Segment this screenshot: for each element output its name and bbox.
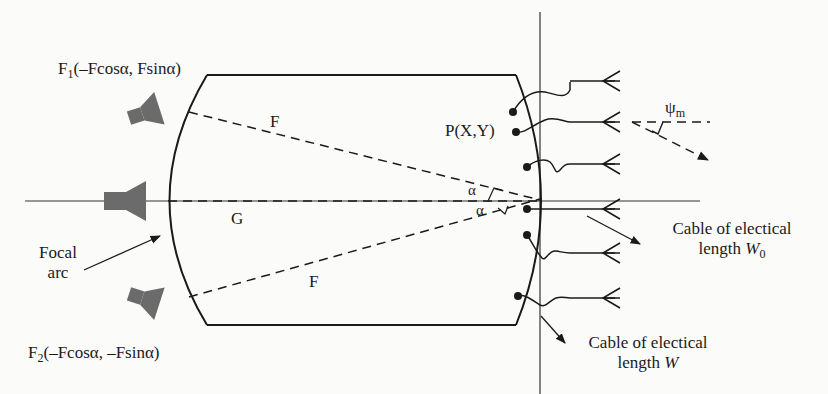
feed-horn-top bbox=[124, 92, 165, 134]
point-p-label: P(X,Y) bbox=[445, 121, 495, 141]
beam-direction bbox=[632, 122, 710, 160]
cable-w0-var: W bbox=[745, 239, 759, 258]
cable-w-arrow bbox=[541, 316, 565, 343]
f2-label: F2(–Fcosα, –Fsinα) bbox=[28, 343, 160, 363]
cable-w0-label: Cable of electical length W0 bbox=[652, 219, 812, 259]
focal-arc-line2: arc bbox=[28, 263, 88, 283]
upper-f-label: F bbox=[270, 112, 279, 132]
cable-w-line1: Cable of electical bbox=[568, 333, 728, 353]
cable-w0-line1: Cable of electical bbox=[652, 219, 812, 239]
cable-w0-subscript: 0 bbox=[759, 247, 765, 261]
antenna-elements bbox=[603, 71, 620, 308]
alpha-upper-label: α bbox=[468, 180, 476, 200]
cable-w0-length-text: length bbox=[699, 239, 746, 258]
cable-w0-line2: length W0 bbox=[652, 239, 812, 259]
lower-f-label: F bbox=[309, 272, 318, 292]
psi-subscript: m bbox=[676, 106, 685, 120]
focal-arc-label: Focal arc bbox=[28, 243, 88, 283]
focal-arc-curve bbox=[170, 75, 208, 325]
g-label: G bbox=[231, 209, 243, 229]
alpha-lower-label: α bbox=[476, 200, 484, 220]
psi-m-label: ψm bbox=[665, 98, 685, 118]
feed-horn-center bbox=[104, 181, 146, 221]
psi-symbol: ψ bbox=[665, 98, 676, 117]
cable-w-var: W bbox=[664, 353, 678, 372]
focal-arc-line1: Focal bbox=[28, 243, 88, 263]
array-port-dots bbox=[509, 108, 531, 300]
cable-w-line2: length W bbox=[568, 353, 728, 373]
cable-w-length-text: length bbox=[618, 353, 665, 372]
f1-label: F1(–Fcosα, Fsinα) bbox=[58, 59, 181, 79]
f2-coords: (–Fcosα, –Fsinα) bbox=[43, 343, 159, 362]
focal-arc-arrow bbox=[84, 236, 160, 270]
feed-horn-bottom bbox=[124, 278, 165, 320]
f1-coords: (–Fcosα, Fsinα) bbox=[73, 59, 181, 78]
cable-w0-arrow bbox=[587, 216, 640, 244]
cable-w-label: Cable of electical length W bbox=[568, 333, 728, 373]
